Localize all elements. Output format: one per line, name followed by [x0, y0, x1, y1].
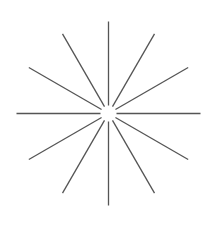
- ray-300: [113, 120, 155, 193]
- ray-60: [113, 34, 155, 107]
- rays-group: [17, 22, 201, 206]
- ray-120: [63, 34, 105, 107]
- ray-150: [29, 68, 102, 110]
- ray-30: [115, 68, 188, 110]
- starburst-diagram: [0, 0, 215, 225]
- ray-330: [115, 118, 188, 160]
- ray-240: [63, 120, 105, 193]
- ray-210: [29, 118, 102, 160]
